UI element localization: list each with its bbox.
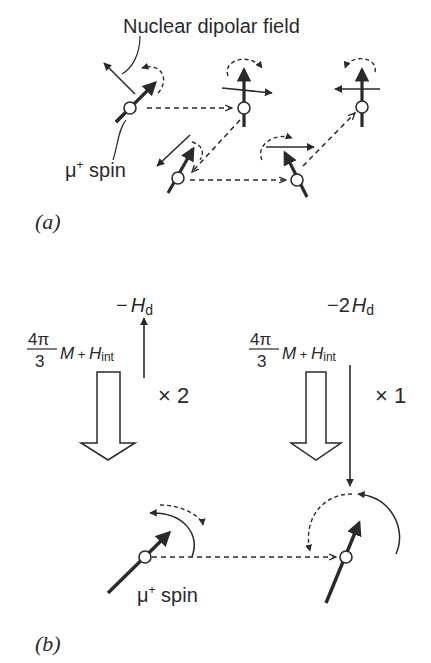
precession-arc-icon (358, 494, 400, 554)
hollow-down-arrow-icon (291, 372, 341, 460)
multiplier-left: × 2 (158, 383, 189, 408)
lorentz-field-label-right: 4π 3 M + Hint (249, 330, 337, 371)
diagram-canvas: Nuclear dipolar field (0, 0, 431, 663)
spin-site-5 (261, 137, 314, 197)
lorentz-field-label-left: 4π 3 M + Hint (27, 330, 115, 371)
spin-site-1 (104, 63, 164, 122)
muon-site-icon (124, 102, 136, 114)
panel-a-label: (a) (35, 209, 61, 234)
svg-text:3: 3 (257, 352, 266, 371)
spin-site-2 (222, 59, 272, 127)
leader-line-icon (122, 36, 140, 74)
muon-site-icon (172, 172, 184, 184)
spin-site-b-right (308, 494, 399, 603)
panel-a: Nuclear dipolar field (35, 15, 380, 234)
muon-spin-arrow-icon (326, 523, 359, 603)
spin-site-b-left (108, 505, 203, 593)
field-stack-left: −Hd 4π 3 M + Hint × 2 (27, 294, 189, 460)
muon-site-icon (238, 102, 250, 114)
muon-site-icon (139, 551, 151, 563)
field-stack-right: −2Hd 4π 3 M + Hint × 1 (249, 294, 406, 486)
svg-text:4π: 4π (28, 330, 49, 349)
svg-text:3: 3 (35, 352, 44, 371)
spin-site-3 (335, 59, 380, 127)
muon-site-icon (291, 174, 303, 186)
nuclear-field-arrow-icon (104, 63, 135, 94)
nuclear-field-arrow-icon (222, 88, 272, 93)
demagnetizing-field-label-right: −2Hd (327, 294, 374, 318)
hollow-down-arrow-icon (81, 372, 135, 460)
muon-site-icon (340, 551, 352, 563)
muon-spin-label-b: μ+ spin (137, 583, 198, 606)
precession-arc-icon (150, 513, 194, 557)
precession-arc-icon (142, 67, 164, 93)
hop-arrow-icon (303, 113, 355, 166)
svg-text:4π: 4π (250, 330, 271, 349)
panel-b: −Hd 4π 3 M + Hint × 2 −2Hd 4π 3 (27, 294, 406, 656)
multiplier-right: × 1 (375, 383, 406, 408)
spin-site-4 (157, 135, 202, 193)
nuclear-dipolar-field-label: Nuclear dipolar field (123, 15, 300, 37)
svg-text:M + Hint: M + Hint (282, 344, 337, 364)
panel-b-label: (b) (35, 631, 61, 656)
precession-arc-icon (345, 59, 375, 72)
svg-text:M + Hint: M + Hint (60, 344, 115, 364)
leader-line-icon (113, 120, 126, 160)
muon-spin-arrow-icon (168, 149, 193, 193)
muon-site-icon (356, 101, 368, 113)
demagnetizing-field-label-left: −Hd (116, 294, 153, 318)
dashed-precession-arc-icon (308, 494, 352, 551)
muon-spin-label: μ+ spin (65, 158, 126, 181)
